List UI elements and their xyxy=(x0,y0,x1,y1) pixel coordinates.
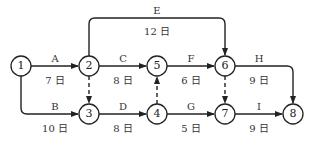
node-2-label: 2 xyxy=(79,56,99,76)
node-4-label: 4 xyxy=(147,104,167,124)
activity-A-duration: 7 日 xyxy=(45,75,65,87)
node-3-label: 3 xyxy=(79,104,99,124)
activity-I-duration: 9 日 xyxy=(249,123,269,135)
activity-B-duration: 10 日 xyxy=(42,123,68,135)
activity-G-duration: 5 日 xyxy=(181,123,201,135)
activity-H-name: H xyxy=(255,53,264,65)
activity-H-duration: 9 日 xyxy=(249,75,269,87)
activity-E-duration: 12 日 xyxy=(144,26,170,38)
node-8-label: 8 xyxy=(283,104,303,124)
node-6-label: 6 xyxy=(215,56,235,76)
node-5-label: 5 xyxy=(147,56,167,76)
activity-A-name: A xyxy=(51,53,58,65)
activity-D-duration: 8 日 xyxy=(113,123,133,135)
activity-E-name: E xyxy=(153,5,160,17)
activity-G-name: G xyxy=(187,101,195,113)
activity-D-name: D xyxy=(119,101,127,113)
activity-C-duration: 8 日 xyxy=(113,75,133,87)
activity-I-name: I xyxy=(257,101,261,113)
activity-B-name: B xyxy=(51,101,58,113)
activity-F-duration: 6 日 xyxy=(181,75,201,87)
activity-C-name: C xyxy=(119,53,127,65)
activity-F-name: F xyxy=(188,53,195,65)
node-1-label: 1 xyxy=(11,56,31,76)
node-7-label: 7 xyxy=(215,104,235,124)
